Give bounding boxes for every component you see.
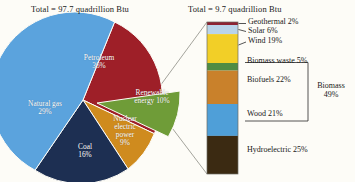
- energy-consumption-figure: [0, 0, 355, 182]
- bar-segment-biofuels[interactable]: [207, 71, 238, 104]
- bar-segment-wood[interactable]: [207, 104, 238, 136]
- pie-chart-title: Total = 97.7 quadrillion Btu: [31, 5, 129, 14]
- bar-label-wood: Wood 21%: [247, 110, 283, 118]
- stacked-bar-column: [207, 22, 238, 174]
- biomass-group-label-value: 49%: [324, 91, 339, 99]
- pie-label-nuclear-value: 9%: [120, 139, 130, 147]
- bar-label-biomass-waste: Biomass waste 5%: [247, 57, 307, 65]
- pie-label-petroleum-value: 36%: [92, 62, 106, 70]
- pie-label-natural-gas-value: 29%: [38, 108, 52, 116]
- bar-segment-biomass-waste[interactable]: [207, 63, 238, 71]
- figure-canvas: Total = 97.7 quadrillion Btu Total = 9.7…: [0, 0, 355, 182]
- bar-label-hydroelectric: Hydroelectric 25%: [247, 146, 308, 154]
- bar-segment-hydroelectric[interactable]: [207, 136, 238, 174]
- pie-label-renewable-line2: energy 10%: [134, 97, 169, 105]
- bar-segment-wind[interactable]: [207, 34, 238, 63]
- bar-leader-lines: [239, 24, 247, 46]
- bar-label-biofuels: Biofuels 22%: [247, 76, 291, 84]
- bar-segment-geothermal[interactable]: [207, 22, 238, 25]
- bar-label-solar: Solar 6%: [248, 27, 278, 35]
- bar-chart-title: Total = 9.7 quadrillion Btu: [188, 5, 282, 14]
- bar-segment-solar[interactable]: [207, 25, 238, 34]
- bar-label-wind: Wind 19%: [248, 37, 282, 45]
- pie-label-coal-value: 16%: [78, 151, 92, 159]
